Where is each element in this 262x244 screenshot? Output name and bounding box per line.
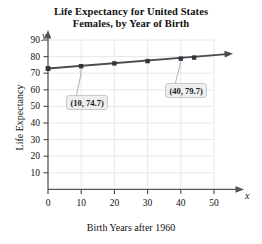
y-tick-label-90: 90 [18,35,40,45]
chart-figure: Life Expectancy for United States Female… [0,0,262,244]
x-axis [48,186,244,193]
x-tick-label-0: 0 [37,198,59,208]
y-axis [45,30,52,189]
data-point-callout-2: (40, 79.7) [165,83,207,98]
y-axis-ticks [44,40,49,173]
x-axis-ticks [48,189,214,194]
data-series-line [48,51,233,69]
x-tick-label-40: 40 [170,198,192,208]
leader-line-2 [176,57,181,83]
x-axis-letter: x [245,190,249,201]
y-tick-label-80: 80 [18,52,40,62]
x-axis-label: Birth Years after 1960 [0,222,262,233]
x-tick-label-10: 10 [70,198,92,208]
x-tick-label-30: 30 [137,198,159,208]
x-tick-label-50: 50 [203,198,225,208]
data-point-callout-1: (10, 74.7) [66,95,108,110]
y-axis-label: Life Expectancy [14,63,25,173]
x-tick-label-20: 20 [103,198,125,208]
leader-line-1 [77,68,82,95]
y-axis-letter: y [42,30,46,41]
